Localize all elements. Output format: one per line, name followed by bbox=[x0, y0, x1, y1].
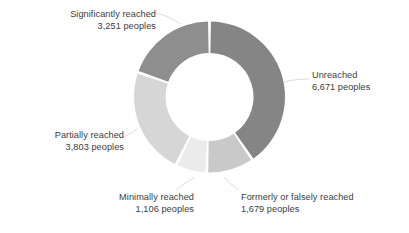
donut-slice-partially-reached[interactable] bbox=[134, 74, 189, 164]
slice-label-value: 3,803 peoples bbox=[8, 142, 124, 154]
slice-label-name: Partially reached bbox=[8, 130, 124, 142]
donut-slices bbox=[134, 22, 285, 173]
slice-label-minimally-reached: Minimally reached 1,106 peoples bbox=[78, 192, 194, 215]
leader-line-significantly bbox=[152, 13, 180, 24]
slice-label-partially-reached: Partially reached 3,803 peoples bbox=[8, 130, 124, 153]
leader-line-minimally bbox=[176, 178, 194, 190]
slice-label-name: Unreached bbox=[312, 70, 406, 82]
slice-label-value: 1,106 peoples bbox=[78, 204, 194, 216]
slice-label-unreached: Unreached 6,671 peoples bbox=[312, 70, 406, 93]
donut-slice-unreached[interactable] bbox=[210, 22, 285, 159]
slice-label-significantly-reached: Significantly reached 3,251 peoples bbox=[14, 9, 156, 32]
leader-line-unreached bbox=[284, 79, 309, 82]
slice-label-name: Formerly or falsely reached bbox=[241, 192, 401, 204]
leader-line-formerly bbox=[224, 177, 238, 190]
slice-label-value: 1,679 peoples bbox=[241, 204, 401, 216]
slice-label-value: 6,671 peoples bbox=[312, 82, 406, 94]
slice-label-value: 3,251 peoples bbox=[14, 21, 156, 33]
slice-label-name: Significantly reached bbox=[14, 9, 156, 21]
slice-label-formerly-or-falsely-reached: Formerly or falsely reached 1,679 people… bbox=[241, 192, 401, 215]
donut-chart-figure: Significantly reached 3,251 peoples Unre… bbox=[0, 0, 409, 233]
slice-label-name: Minimally reached bbox=[78, 192, 194, 204]
